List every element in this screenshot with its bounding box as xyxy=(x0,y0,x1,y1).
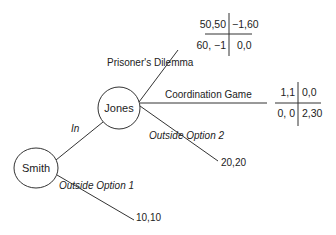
pd-cell-1-2: −1,60 xyxy=(232,19,259,30)
edge-in xyxy=(56,122,103,160)
pd-cell-2-2: 0,0 xyxy=(237,40,252,51)
pd-cell-2-1: 60, −1 xyxy=(190,40,226,51)
cg-cell-2-2: 2,30 xyxy=(302,108,322,119)
payoff-outside-option-2: 20,20 xyxy=(221,158,246,168)
edge-label-prisoners-dilemma: Prisoner's Dilemma xyxy=(107,58,193,68)
payoff-outside-option-1: 10,10 xyxy=(136,213,161,223)
jones-node: Jones xyxy=(104,103,133,114)
edge-label-in: In xyxy=(71,124,79,134)
cg-cell-1-1: 1,1 xyxy=(270,87,295,98)
smith-node: Smith xyxy=(22,163,50,174)
pd-cell-1-1: 50,50 xyxy=(190,19,226,30)
edge-label-outside-option-1: Outside Option 1 xyxy=(59,181,134,191)
edge-label-outside-option-2: Outside Option 2 xyxy=(149,131,224,141)
cg-cell-2-1: 0, 0 xyxy=(270,108,295,119)
cg-cell-1-2: 0,0 xyxy=(302,87,317,98)
edge-label-coordination-game: Coordination Game xyxy=(165,90,252,100)
